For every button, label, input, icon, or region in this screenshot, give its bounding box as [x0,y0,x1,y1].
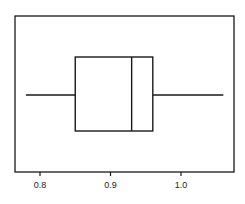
x-tick-label: 1.0 [175,180,188,190]
plot-frame [15,16,234,172]
x-tick-label: 0.9 [104,180,117,190]
x-axis: 0.80.91.0 [34,172,188,190]
boxplot-chart: 0.80.91.0 [0,0,245,204]
x-tick-label: 0.8 [34,180,47,190]
